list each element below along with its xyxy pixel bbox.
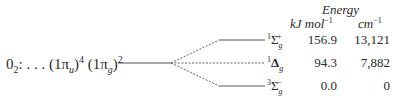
state-label-sigma-minus: 3Σg− bbox=[267, 78, 282, 96]
parity: g bbox=[279, 41, 283, 50]
cm-label: cm bbox=[358, 16, 373, 31]
cm-header: cm−1 bbox=[358, 16, 382, 32]
kj-mol-header: kJ mol−1 bbox=[290, 16, 333, 32]
orbital2-sup: 2 bbox=[118, 54, 123, 65]
parity: g bbox=[279, 64, 283, 73]
orbital2: (1π bbox=[84, 56, 108, 72]
connector-lower bbox=[171, 63, 219, 86]
state-label-delta: 1Δg bbox=[267, 55, 283, 73]
connector-upper bbox=[171, 40, 219, 63]
cm-value: 7,882 bbox=[330, 55, 390, 71]
cm-value: 0 bbox=[330, 78, 390, 94]
state-label-sigma-plus: 1Σg+ bbox=[267, 32, 282, 50]
orbital1: (1π bbox=[49, 56, 69, 72]
reflection-sign: − bbox=[277, 78, 282, 87]
cm-sup: −1 bbox=[373, 16, 382, 25]
ellipsis: : . . . bbox=[19, 56, 49, 72]
kj-mol-label: kJ mol bbox=[290, 16, 324, 31]
term-symbol: Δ bbox=[271, 55, 279, 70]
parity: g bbox=[279, 87, 283, 96]
molecule-label: 0 bbox=[6, 56, 14, 72]
kj-mol-sup: −1 bbox=[324, 16, 333, 25]
electron-configuration: 02: . . . (1πu)4 (1πg)2 bbox=[6, 54, 123, 75]
cm-value: 13,121 bbox=[330, 32, 390, 48]
reflection-sign: + bbox=[277, 32, 282, 41]
